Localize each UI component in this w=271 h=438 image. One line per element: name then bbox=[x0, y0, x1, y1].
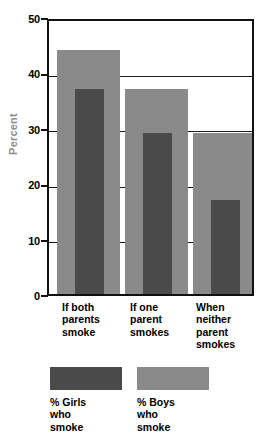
plot-area bbox=[47, 19, 254, 296]
y-tick-label-30: 30 bbox=[0, 124, 40, 136]
y-tick-label-10: 10 bbox=[0, 235, 40, 247]
y-tick-label-40: 40 bbox=[0, 68, 40, 80]
y-tick-label-50: 50 bbox=[0, 13, 40, 25]
legend-entry-girls: % Girls who smoke bbox=[50, 367, 122, 433]
bar-girls-if-both-parents-smoke bbox=[75, 89, 104, 294]
bar-chart-figure: Percent 50 40 30 20 10 0 If b bbox=[0, 0, 271, 438]
category-label-if-both-parents-smoke: If both parents smoke bbox=[62, 301, 100, 338]
legend-label-girls: % Girls who smoke bbox=[50, 396, 122, 433]
category-label-when-neither-parent-smokes: When neither parent smokes bbox=[196, 301, 235, 351]
category-label-if-one-parent-smokes: If one parent smokes bbox=[130, 301, 169, 338]
y-tick-label-0: 0 bbox=[0, 290, 40, 302]
bar-girls-if-one-parent-smokes bbox=[143, 133, 172, 294]
bar-group-if-one-parent-smokes bbox=[125, 21, 188, 294]
bar-girls-when-neither-parent-smokes bbox=[211, 200, 240, 294]
legend-swatch-boys bbox=[137, 367, 209, 390]
legend-label-boys: % Boys who smoke bbox=[137, 396, 209, 433]
legend-swatch-girls bbox=[50, 367, 122, 390]
legend-entry-boys: % Boys who smoke bbox=[137, 367, 209, 433]
bar-group-if-both-parents-smoke bbox=[57, 21, 120, 294]
y-tick-label-20: 20 bbox=[0, 179, 40, 191]
chart-legend: % Girls who smoke % Boys who smoke bbox=[0, 367, 271, 438]
bar-group-when-neither-parent-smokes bbox=[193, 21, 254, 294]
